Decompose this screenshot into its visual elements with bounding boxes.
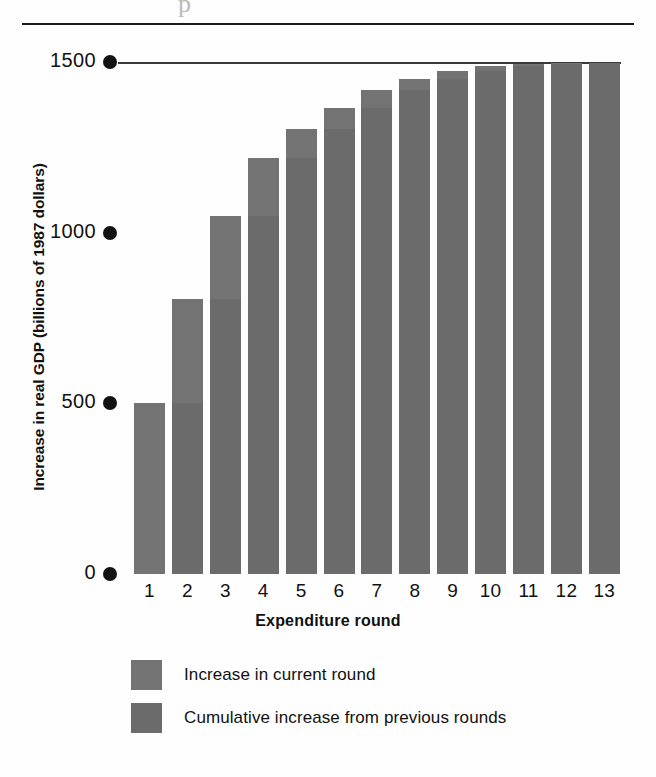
x-axis-title: Expenditure round <box>0 612 656 630</box>
bar-round-13 <box>589 63 620 574</box>
bar-segment-cumulative <box>286 158 317 574</box>
bar-round-8 <box>399 79 430 574</box>
x-axis-tick-label-2: 2 <box>166 580 209 602</box>
bar-round-1 <box>134 403 165 574</box>
bar-segment-cumulative <box>399 90 430 574</box>
bar-round-9 <box>437 71 468 574</box>
legend-swatch-icon <box>131 660 162 690</box>
legend-item-label: Cumulative increase from previous rounds <box>184 708 506 728</box>
bar-segment-current-round <box>286 129 317 158</box>
bar-segment-cumulative <box>172 403 203 574</box>
x-axis-tick-label-8: 8 <box>393 580 436 602</box>
bar-round-5 <box>286 129 317 574</box>
bar-round-11 <box>513 64 544 574</box>
x-axis-tick-label-9: 9 <box>431 580 474 602</box>
bar-segment-cumulative <box>361 108 392 574</box>
x-axis-tick-label-3: 3 <box>204 580 247 602</box>
bar-segment-current-round <box>361 90 392 108</box>
figure-container: p Increase in real GDP (billions of 1987… <box>0 0 656 777</box>
bar-segment-current-round <box>172 299 203 403</box>
bar-segment-cumulative <box>513 66 544 574</box>
x-axis-tick-label-13: 13 <box>583 580 626 602</box>
x-axis-tick-label-7: 7 <box>355 580 398 602</box>
bar-segment-cumulative <box>589 63 620 574</box>
legend-swatch-icon <box>131 703 162 733</box>
x-axis-tick-label-6: 6 <box>318 580 361 602</box>
bar-segment-current-round <box>437 71 468 79</box>
bar-round-2 <box>172 299 203 574</box>
bar-segment-cumulative <box>475 71 506 574</box>
bar-round-4 <box>248 158 279 574</box>
x-axis-tick-label-4: 4 <box>242 580 285 602</box>
chart-legend: Increase in current round Cumulative inc… <box>131 660 506 746</box>
bar-segment-current-round <box>134 403 165 574</box>
bar-segment-cumulative <box>324 129 355 574</box>
bar-segment-cumulative <box>437 79 468 574</box>
x-axis-tick-label-11: 11 <box>507 580 550 602</box>
bar-segment-cumulative <box>551 64 582 574</box>
bar-round-3 <box>210 216 241 574</box>
bar-round-12 <box>551 63 582 574</box>
x-axis-tick-label-12: 12 <box>545 580 588 602</box>
bar-round-6 <box>324 108 355 574</box>
x-axis-tick-label-5: 5 <box>280 580 323 602</box>
bar-segment-cumulative <box>248 216 279 574</box>
bar-segment-cumulative <box>210 299 241 574</box>
x-axis-tick-label-1: 1 <box>128 580 171 602</box>
bar-round-10 <box>475 66 506 574</box>
bar-round-7 <box>361 90 392 574</box>
bar-segment-current-round <box>210 216 241 300</box>
legend-item-current-round: Increase in current round <box>131 660 506 690</box>
legend-item-label: Increase in current round <box>184 665 376 685</box>
bar-segment-current-round <box>324 108 355 129</box>
x-axis-tick-label-10: 10 <box>469 580 512 602</box>
bar-segment-current-round <box>248 158 279 215</box>
legend-item-cumulative: Cumulative increase from previous rounds <box>131 703 506 733</box>
bar-segment-current-round <box>399 79 430 90</box>
